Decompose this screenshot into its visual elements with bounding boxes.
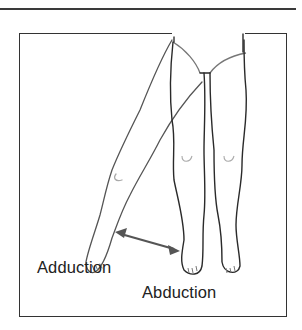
legs-illustration [0,0,302,330]
double-arrow-icon [115,228,180,255]
standing-legs [171,34,247,274]
adduction-label: Adduction [37,258,111,277]
abduction-label: Abduction [142,283,216,302]
